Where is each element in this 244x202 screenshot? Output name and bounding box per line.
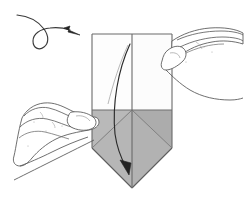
illustration-canvas: Origami folding step Two hands holding a… — [0, 0, 244, 202]
right-hand-shade-dot-1 — [204, 47, 205, 48]
left-hand-shade-dot-4 — [28, 146, 29, 147]
right-hand-shade-dot-2 — [212, 52, 213, 53]
left-hand-shade-dot-2 — [46, 131, 47, 132]
right-hand-shade-dot-3 — [186, 62, 187, 63]
origami-step-illustration: Origami folding step Two hands holding a… — [0, 0, 244, 202]
left-hand-shade-dot-3 — [62, 126, 63, 127]
paper-upper-left-panel — [92, 34, 132, 110]
paper-upper-right-panel — [132, 34, 172, 110]
left-hand-shade-dot-1 — [34, 122, 35, 123]
